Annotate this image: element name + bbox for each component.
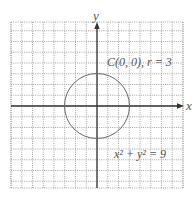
coordinate-plane-figure: y x C(0, 0), r = 3 x² + y² = 9 (0, 0, 196, 197)
center-radius-annotation: C(0, 0), r = 3 (107, 55, 172, 69)
y-axis-label: y (91, 8, 99, 23)
equation-annotation: x² + y² = 9 (113, 147, 166, 161)
x-axis-label: x (185, 98, 192, 113)
equation-text: x² + y² = 9 (113, 147, 166, 161)
y-axis-arrow-icon (94, 22, 99, 29)
